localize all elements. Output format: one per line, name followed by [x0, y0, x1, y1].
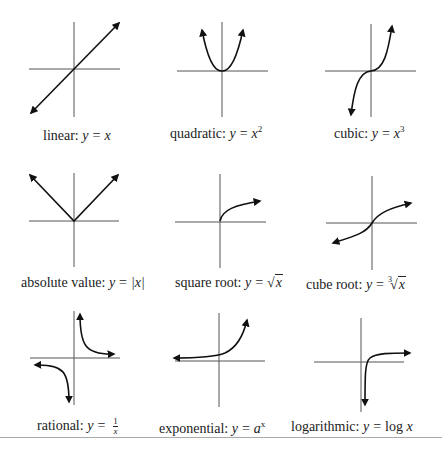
- absolute-value-label: absolute value: y=|x|: [21, 275, 145, 291]
- eq-op: =: [255, 275, 263, 290]
- cube-root-label: cube root: y=3√x: [306, 275, 406, 293]
- log-function: log: [385, 419, 403, 434]
- quadratic-equation: y=x2: [229, 126, 262, 141]
- cube-root-equation: y=3√x: [366, 277, 406, 292]
- logarithmic-graph: [314, 318, 410, 412]
- eq-lhs: y: [372, 126, 378, 141]
- cubic-graph: [325, 24, 416, 117]
- eq-op: =: [382, 126, 390, 141]
- eq-op: =: [240, 126, 248, 141]
- linear-equation: y=x: [82, 128, 110, 143]
- function-name: exponential:: [159, 421, 228, 436]
- bottom-divider: [0, 437, 442, 438]
- radical-sign: √: [390, 277, 398, 292]
- eq-op: =: [119, 275, 127, 290]
- radicand: x: [275, 274, 283, 290]
- radical: √x: [267, 274, 283, 290]
- eq-lhs: y: [109, 275, 115, 290]
- function-name: square root:: [175, 275, 241, 290]
- logarithmic-curve: [365, 353, 410, 405]
- exponential-label: exponential: y=ax: [159, 419, 265, 437]
- function-name: absolute value:: [21, 275, 105, 290]
- function-name: cubic:: [334, 126, 368, 141]
- radical: 3√x: [388, 277, 406, 292]
- linear-graph: [29, 22, 120, 117]
- exponential-equation: y=ax: [232, 421, 266, 436]
- rational-curve-lower: [35, 365, 69, 402]
- logarithmic-label: logarithmic: y=log x: [291, 419, 413, 435]
- rational-label: rational: y=1x: [37, 417, 118, 436]
- cube-root-graph: [326, 176, 417, 270]
- denominator: x: [113, 427, 118, 436]
- logarithmic-equation: y=log x: [363, 419, 413, 434]
- cubic-label: cubic: y=x3: [334, 124, 405, 142]
- rational-curve-upper: [80, 314, 114, 354]
- eq-op: =: [242, 421, 250, 436]
- eq-lhs: y: [229, 126, 235, 141]
- eq-lhs: y: [245, 275, 251, 290]
- eq-op: =: [376, 277, 384, 292]
- exponent: x: [261, 419, 266, 429]
- exponent: 2: [258, 124, 263, 134]
- eq-op: =: [92, 128, 100, 143]
- exponential-graph: [174, 313, 265, 407]
- eq-lhs: y: [232, 421, 238, 436]
- square-root-label: square root: y=√x: [175, 275, 283, 291]
- eq-rhs: x: [104, 128, 110, 143]
- quadratic-label: quadratic: y=x2: [170, 124, 262, 142]
- linear-curve: [31, 23, 119, 113]
- quadratic-graph: [177, 22, 268, 117]
- eq-lhs: y: [87, 418, 93, 433]
- eq-lhs: y: [82, 128, 88, 143]
- eq-lhs: y: [366, 277, 372, 292]
- eq-lhs: y: [363, 419, 369, 434]
- absolute-value-equation: y=|x|: [109, 275, 145, 290]
- radicand: x: [398, 276, 406, 292]
- exponent: 3: [400, 124, 405, 134]
- square-root-equation: y=√x: [245, 275, 283, 290]
- eq-op: =: [97, 418, 105, 433]
- function-name: linear:: [43, 128, 79, 143]
- radical-sign: √: [267, 275, 275, 290]
- parent-functions-diagram: [0, 0, 442, 454]
- eq-op: =: [373, 419, 381, 434]
- exponential-curve: [174, 320, 247, 358]
- rational-equation: y=1x: [87, 418, 118, 433]
- function-name: logarithmic:: [291, 419, 359, 434]
- rational-graph: [30, 311, 120, 405]
- eq-rhs: a: [254, 421, 261, 436]
- function-name: cube root:: [306, 277, 362, 292]
- square-root-curve: [220, 201, 260, 221]
- absolute-value-graph: [29, 173, 119, 267]
- linear-label: linear: y=x: [43, 128, 111, 144]
- function-name: rational:: [37, 418, 84, 433]
- square-root-graph: [175, 174, 266, 268]
- eq-rhs: x: [406, 419, 412, 434]
- eq-rhs: |x|: [131, 275, 145, 290]
- function-name: quadratic:: [170, 126, 226, 141]
- fraction: 1x: [113, 417, 118, 436]
- cubic-equation: y=x3: [372, 126, 405, 141]
